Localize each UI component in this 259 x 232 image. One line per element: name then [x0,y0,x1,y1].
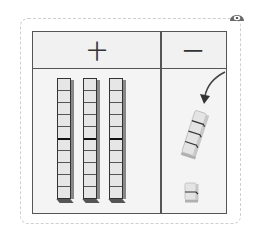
tens-rod [83,78,97,199]
ones-single-cube [185,183,199,203]
ones-stack [181,110,210,159]
place-value-table: 十 一 [32,31,227,214]
curved-arrow-icon [205,72,225,96]
tens-rod [109,78,123,199]
header-tens: 十 [33,32,160,68]
tens-rod [57,78,71,199]
eye-icon[interactable] [228,9,246,25]
header-ones: 一 [161,32,225,68]
table-header: 十 一 [33,32,226,69]
ones-column-art [161,68,227,213]
